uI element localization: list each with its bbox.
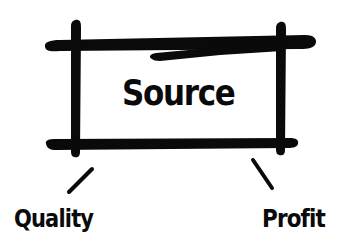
center-label-source: Source bbox=[122, 72, 234, 113]
connector-profit bbox=[253, 160, 272, 188]
branch-label-profit: Profit bbox=[262, 204, 325, 233]
diagram-canvas: Source Quality Profit bbox=[0, 0, 346, 252]
connector-quality bbox=[69, 169, 92, 192]
frame-bottom-stroke bbox=[46, 138, 298, 150]
frame-right-stroke bbox=[276, 22, 286, 156]
branch-label-quality: Quality bbox=[14, 204, 93, 233]
frame-left-stroke bbox=[71, 20, 81, 158]
